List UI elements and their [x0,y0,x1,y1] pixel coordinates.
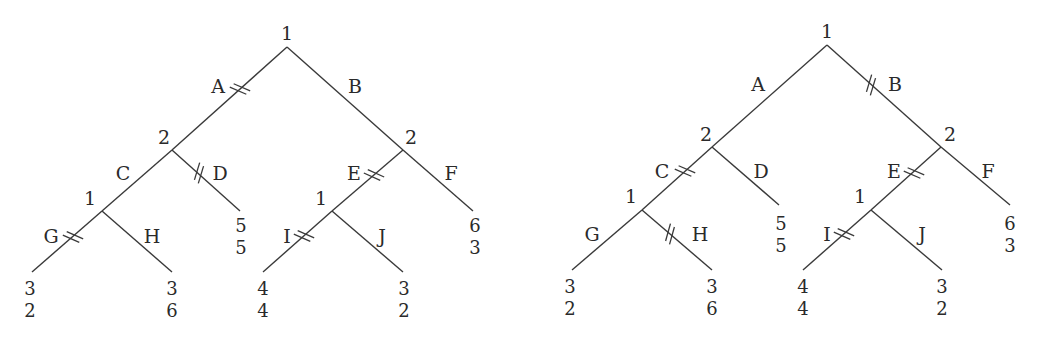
cut-mark-icon [904,168,924,179]
player-label-n1r: 1 [854,185,866,207]
branch-label-b: B [348,75,362,97]
payoff-player2: 4 [797,298,808,319]
branch-e [871,147,941,210]
player-label-root: 1 [281,22,293,44]
branch-f [941,147,1010,205]
payoff-player1: 5 [775,213,786,234]
branch-label-a: A [750,73,765,95]
payoff-player1: 6 [469,215,480,236]
branch-label-b: B [888,73,902,95]
game-tree-diagram: ABCDEFGHIJ12211323655443263 ABCDEFGHIJ12… [0,0,1044,338]
payoff-leafg: 32 [24,278,35,321]
branch-label-g: G [43,225,58,247]
branch-label-h: H [144,225,161,247]
branch-h [102,211,172,272]
branch-a [172,47,287,150]
branch-d [172,150,240,211]
payoff-player1: 3 [24,278,35,299]
branch-label-e: E [887,160,901,182]
branch-i [803,210,871,270]
branch-label-c: C [116,162,131,184]
branch-c [102,150,172,211]
payoff-player1: 5 [235,215,246,236]
payoff-player1: 3 [706,276,717,297]
branch-label-h: H [692,223,709,245]
game-tree-left: ABCDEFGHIJ12211323655443263 [24,22,480,321]
payoff-player1: 3 [564,276,575,297]
game-tree-right: ABCDEFGHIJ12211323655443263 [564,20,1015,319]
payoff-player2: 2 [936,298,947,319]
payoff-player1: 3 [398,278,409,299]
payoff-player2: 6 [706,298,717,319]
payoff-leafj: 32 [398,278,409,321]
payoff-player2: 5 [235,237,246,258]
player-label-root: 1 [821,20,833,42]
branch-label-g: G [584,223,599,245]
branch-label-d: D [753,160,768,182]
payoff-leafi: 44 [257,278,268,321]
branch-e [332,150,403,211]
payoff-player1: 3 [166,278,177,299]
branch-label-c: C [655,160,670,182]
branch-label-f: F [444,162,457,184]
payoff-player2: 2 [398,300,409,321]
branch-d [712,147,779,205]
player-label-n2r: 2 [405,126,417,148]
player-label-n2r: 2 [944,123,956,145]
branch-b [287,47,403,150]
player-label-n1l: 1 [625,185,637,207]
payoff-player1: 4 [797,276,808,297]
payoff-leafh: 36 [166,278,177,321]
payoff-leafd: 55 [235,215,246,258]
branch-label-j: J [376,225,386,247]
branch-label-i: I [283,225,291,247]
payoff-player1: 3 [936,276,947,297]
payoff-player2: 5 [775,235,786,256]
player-label-n1l: 1 [84,187,96,209]
payoff-player2: 2 [24,300,35,321]
branch-label-f: F [981,160,994,182]
payoff-leaff: 63 [469,215,480,258]
payoff-leafj: 32 [936,276,947,319]
branch-c [642,147,712,210]
player-label-n2l: 2 [700,123,712,145]
branch-label-i: I [823,223,831,245]
payoff-leafh: 36 [706,276,717,319]
payoff-player1: 4 [257,278,268,299]
payoff-player2: 3 [469,237,480,258]
player-label-n1r: 1 [315,187,327,209]
branch-label-j: J [916,223,926,245]
branch-g [572,210,642,270]
player-label-n2l: 2 [158,126,170,148]
payoff-leafi: 44 [797,276,808,319]
payoff-player1: 6 [1004,213,1015,234]
branch-i [263,211,332,272]
branch-a [712,45,827,147]
payoff-player2: 6 [166,300,177,321]
branch-label-d: D [212,162,227,184]
cut-mark-icon [194,163,203,184]
payoff-player2: 3 [1004,235,1015,256]
payoff-player2: 2 [564,298,575,319]
branch-b [827,45,941,147]
branch-f [403,150,473,211]
branch-label-a: A [210,75,225,97]
payoff-leafg: 32 [564,276,575,319]
payoff-leaff: 63 [1004,213,1015,256]
payoff-player2: 4 [257,300,268,321]
payoff-leafd: 55 [775,213,786,256]
branch-label-e: E [347,162,361,184]
branch-j [871,210,942,270]
branch-j [332,211,403,272]
